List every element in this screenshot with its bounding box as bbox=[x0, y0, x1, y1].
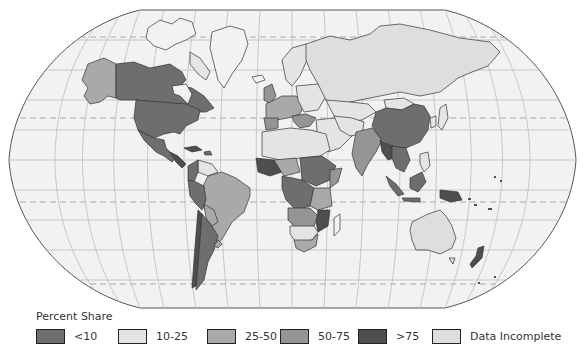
legend-swatch bbox=[280, 329, 309, 344]
legend: <10 10-25 25-50 50-75 >75 Data Incomplet… bbox=[36, 327, 576, 345]
legend-label: Data Incomplete bbox=[470, 330, 561, 343]
legend-item-25-50: 25-50 bbox=[207, 327, 277, 345]
legend-swatch bbox=[432, 329, 461, 344]
legend-label: 50-75 bbox=[318, 330, 350, 343]
legend-label: 10-25 bbox=[156, 330, 188, 343]
legend-title: Percent Share bbox=[36, 310, 113, 323]
north-africa bbox=[262, 128, 330, 160]
legend-item-50-75: 50-75 bbox=[280, 327, 350, 345]
legend-swatch bbox=[358, 329, 387, 344]
legend-item-gt75: >75 bbox=[358, 327, 419, 345]
legend-label: <10 bbox=[74, 330, 97, 343]
korea bbox=[430, 116, 436, 128]
legend-item-data-incomplete: Data Incomplete bbox=[432, 327, 561, 345]
iberia bbox=[264, 118, 278, 130]
east-africa bbox=[310, 188, 332, 210]
legend-item-lt10: <10 bbox=[36, 327, 97, 345]
legend-swatch bbox=[36, 329, 65, 344]
legend-swatch bbox=[118, 329, 147, 344]
legend-swatch bbox=[207, 329, 236, 344]
legend-item-10-25: 10-25 bbox=[118, 327, 188, 345]
world-map bbox=[0, 0, 585, 312]
legend-label: >75 bbox=[396, 330, 419, 343]
legend-label: 25-50 bbox=[245, 330, 277, 343]
